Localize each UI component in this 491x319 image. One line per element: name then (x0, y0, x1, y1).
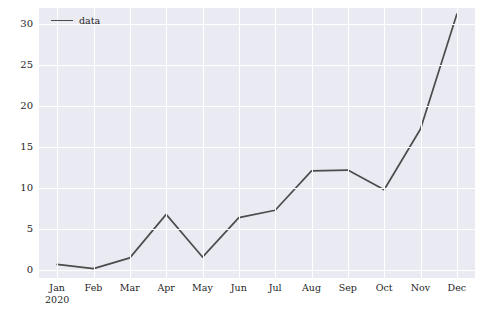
x-tick-label-sep: Sep (339, 282, 357, 294)
y-tick-label-15: 15 (3, 142, 33, 152)
gridline-vertical-1 (94, 8, 95, 278)
x-tick-label-main: May (192, 282, 213, 293)
plot-area (39, 8, 475, 278)
y-tick-label-0: 0 (3, 265, 33, 275)
gridline-vertical-7 (312, 8, 313, 278)
x-axis-tick-labels: Jan2020FebMarAprMayJunJulAugSepOctNovDec (39, 282, 475, 318)
gridline-vertical-4 (203, 8, 204, 278)
x-tick-label-main: Jun (231, 282, 247, 293)
gridline-vertical-9 (384, 8, 385, 278)
gridline-vertical-5 (239, 8, 240, 278)
x-tick-label-main: Jan (49, 282, 65, 293)
x-tick-label-dec: Dec (448, 282, 467, 294)
gridline-vertical-0 (57, 8, 58, 278)
x-tick-label-apr: Apr (157, 282, 174, 294)
x-tick-label-oct: Oct (376, 282, 393, 294)
x-tick-label-feb: Feb (85, 282, 103, 294)
y-axis-tick-labels: 051015202530 (0, 8, 33, 278)
gridline-horizontal-0 (39, 270, 475, 271)
chart-figure: 051015202530 Jan2020FebMarAprMayJunJulAu… (0, 0, 491, 319)
x-tick-label-main: Nov (411, 282, 430, 293)
x-tick-label-main: Dec (448, 282, 467, 293)
gridline-vertical-10 (421, 8, 422, 278)
gridline-vertical-8 (348, 8, 349, 278)
y-tick-label-5: 5 (3, 224, 33, 234)
x-tick-label-main: Feb (85, 282, 103, 293)
legend-label-data: data (79, 16, 100, 26)
gridline-horizontal-5 (39, 229, 475, 230)
x-tick-label-may: May (192, 282, 213, 294)
gridline-vertical-6 (275, 8, 276, 278)
y-tick-label-20: 20 (3, 101, 33, 111)
gridline-horizontal-25 (39, 65, 475, 66)
y-tick-label-10: 10 (3, 183, 33, 193)
data-series-data (39, 8, 475, 278)
x-tick-label-main: Aug (302, 282, 321, 293)
x-tick-label-main: Mar (120, 282, 140, 293)
legend-line-swatch-data (51, 20, 73, 21)
gridline-horizontal-30 (39, 24, 475, 25)
x-tick-label-year: 2020 (45, 294, 69, 306)
x-tick-label-main: Sep (339, 282, 357, 293)
x-tick-label-jul: Jul (269, 282, 282, 294)
gridline-vertical-2 (130, 8, 131, 278)
x-tick-label-main: Jul (269, 282, 282, 293)
data-line-path (57, 14, 457, 268)
x-tick-label-aug: Aug (302, 282, 321, 294)
gridline-horizontal-10 (39, 188, 475, 189)
x-tick-label-mar: Mar (120, 282, 140, 294)
gridline-horizontal-15 (39, 147, 475, 148)
gridline-vertical-11 (457, 8, 458, 278)
y-tick-label-30: 30 (3, 19, 33, 29)
y-tick-label-25: 25 (3, 60, 33, 70)
gridline-horizontal-20 (39, 106, 475, 107)
x-tick-label-jun: Jun (231, 282, 247, 294)
x-tick-label-nov: Nov (411, 282, 430, 294)
chart-legend: data (47, 14, 104, 28)
x-tick-label-main: Oct (376, 282, 393, 293)
gridline-vertical-3 (166, 8, 167, 278)
x-tick-label-jan: Jan2020 (45, 282, 69, 306)
x-tick-label-main: Apr (157, 282, 174, 293)
